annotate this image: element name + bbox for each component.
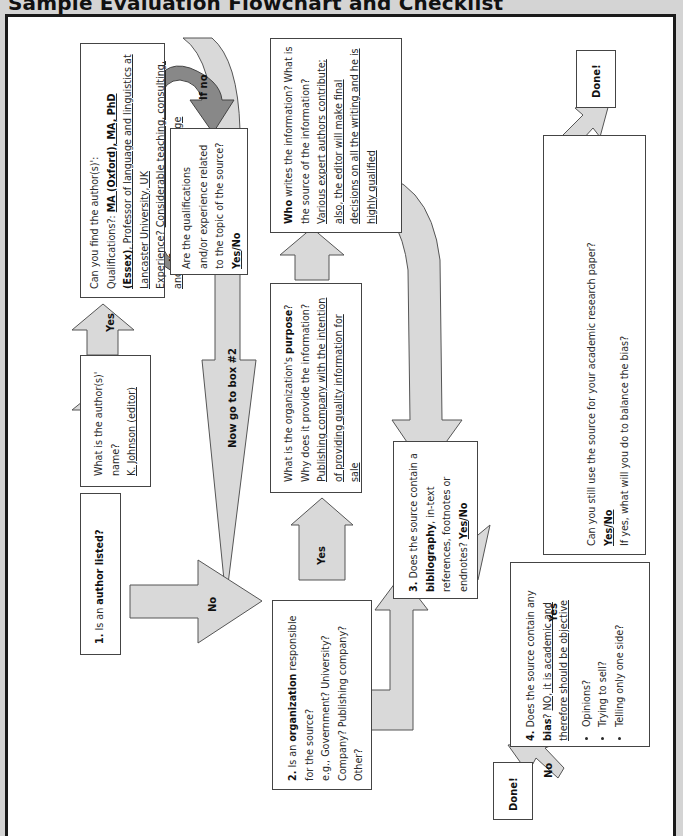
now-go-to-box2-label: Now go to box #2 [227, 348, 238, 448]
qualifications-box: Can you find the author(s)': Qualificati… [80, 43, 165, 298]
yes-label-4: Yes [548, 603, 559, 622]
purpose-box: What is the organization's purpose? Why … [270, 283, 362, 493]
author-name-box: What is the author(s)' name? K. Johnson … [80, 355, 151, 487]
done-box-bottom: Done! [493, 762, 533, 820]
bias-checklist: Opinions? Trying to sell? Telling only o… [579, 571, 629, 741]
if-no-label: If no [198, 74, 209, 100]
yes-label-3: Yes [316, 546, 327, 565]
box-4-bias: 4. Does the source contain any bias? NO,… [510, 562, 650, 747]
done-box-top: Done! [576, 50, 616, 108]
box-2-organization: 2. Is an organization responsible for th… [272, 600, 372, 790]
who-writes-box: Who writes the information? What is the … [270, 38, 402, 233]
yes-label-2: Yes [105, 313, 116, 332]
box-1-author-listed: 1. Is an author listed? [80, 493, 121, 655]
box-3-bibliography: 3. Does the source contain a bibliograph… [393, 441, 478, 599]
related-to-topic-box: Are the qualifications and/or experience… [170, 128, 248, 275]
no-label-1: No [207, 597, 218, 612]
no-label-2: No [543, 763, 554, 778]
can-use-source-box: Can you still use the source for your ac… [543, 135, 646, 555]
